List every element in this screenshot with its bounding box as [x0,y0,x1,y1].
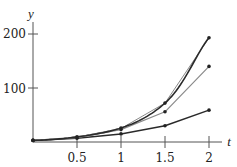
y-axis-label: y [26,6,34,21]
series-approx-1-line [33,38,209,141]
x-tick-label-0.5: 0.5 [67,151,86,165]
series-approx-2-line-point [163,110,167,114]
chart: 200 100 0.5 1 1.5 2 y t [0,0,237,167]
x-tick-label-1.5: 1.5 [155,151,174,165]
series-exact-point [31,139,35,143]
series-approx-3-line [33,110,209,140]
y-tick-label-200: 200 [3,27,26,41]
y-tick-label-100: 100 [3,82,26,96]
series-exact-point [163,101,167,105]
x-tick-label-1: 1 [117,151,125,165]
series-approx-3-line-point [119,132,123,136]
x-tick-label-2: 2 [205,151,213,165]
series-exact-point [207,36,211,40]
series-approx-2-line-point [207,65,211,69]
series-exact-point [75,135,79,139]
series-exact-point [119,126,123,130]
series-exact-curve [33,38,209,141]
series-approx-3-line-point [163,124,167,128]
x-axis-label: t [227,134,231,149]
series-layer [31,36,211,142]
series-approx-3-line-point [207,108,211,112]
